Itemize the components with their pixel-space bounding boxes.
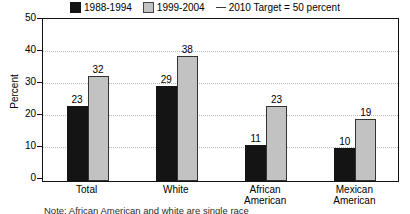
bar: 11 <box>245 145 266 181</box>
bar-groups: 2332293811231019 <box>43 19 398 181</box>
gray-square-swatch-icon <box>143 2 154 13</box>
y-tick-label: 50 <box>0 13 36 23</box>
legend-item-1999-2004: 1999-2004 <box>143 2 205 13</box>
legend-item-1988-1994: 1988-1994 <box>70 2 132 13</box>
x-axis-label: White <box>131 184 220 195</box>
chart-legend: 1988-1994 1999-2004 2010 Target = 50 per… <box>0 0 410 15</box>
legend-item-2010-target: 2010 Target = 50 percent <box>216 3 340 13</box>
bar-value-label: 29 <box>161 75 172 85</box>
y-tick-label: 20 <box>0 109 36 119</box>
bar-value-label: 32 <box>93 65 104 75</box>
bar: 23 <box>67 106 88 181</box>
y-tick-label: 40 <box>0 45 36 55</box>
x-axis-label: African American <box>221 184 310 206</box>
legend-label: 1988-1994 <box>84 3 132 13</box>
bar: 10 <box>334 148 355 181</box>
y-tick-label: 30 <box>0 77 36 87</box>
legend-label: 2010 Target = 50 percent <box>229 3 340 13</box>
legend-label: 1999-2004 <box>157 3 205 13</box>
bar-value-label: 23 <box>271 95 282 105</box>
bar: 38 <box>177 56 198 181</box>
bar: 29 <box>156 86 177 181</box>
x-axis-label: Total <box>42 184 131 195</box>
bar-group: 1123 <box>222 19 311 181</box>
bar: 32 <box>88 76 109 181</box>
plot-area: 2332293811231019 <box>42 18 399 182</box>
chart-footnote: Note: African American and white are sin… <box>44 205 374 214</box>
bar-value-label: 23 <box>72 95 83 105</box>
chart-figure: 1988-1994 1999-2004 2010 Target = 50 per… <box>0 0 410 214</box>
y-tick-label: 0 <box>0 173 36 183</box>
x-axis-label: Mexican American <box>310 184 399 206</box>
bar: 19 <box>355 119 376 181</box>
bar-group: 1019 <box>311 19 400 181</box>
black-square-swatch-icon <box>70 2 81 13</box>
bar-group: 2332 <box>43 19 132 181</box>
bar-value-label: 19 <box>360 108 371 118</box>
bar-value-label: 10 <box>339 137 350 147</box>
bar-group: 2938 <box>132 19 221 181</box>
line-marker-icon <box>216 7 226 8</box>
y-tick-label: 10 <box>0 141 36 151</box>
bar-value-label: 11 <box>250 134 260 144</box>
bar: 23 <box>266 106 287 181</box>
bar-value-label: 38 <box>182 45 193 55</box>
